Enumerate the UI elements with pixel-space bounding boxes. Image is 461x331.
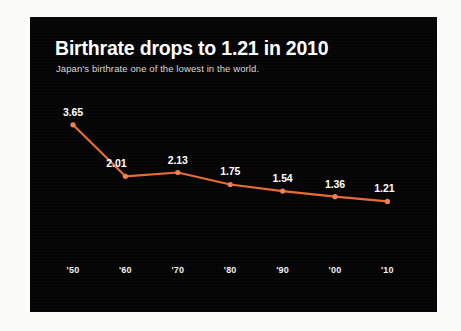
data-point-label: 1.75 <box>220 165 240 177</box>
data-point-label: 1.54 <box>273 172 293 184</box>
x-tick-label: '10 <box>381 265 394 275</box>
data-point-marker <box>385 199 390 204</box>
data-point-label: 1.21 <box>374 182 394 194</box>
x-tick-label: '00 <box>329 265 342 275</box>
data-point-marker <box>175 170 180 175</box>
chart-page: Birthrate drops to 1.21 in 2010 Japan's … <box>0 0 461 331</box>
x-tick-label: '70 <box>171 265 184 275</box>
data-point-label: 2.13 <box>168 154 188 166</box>
data-point-label: 3.65 <box>63 106 83 118</box>
x-tick-label: '60 <box>119 265 132 275</box>
data-point-label: 1.36 <box>325 178 345 190</box>
data-point-label: 2.01 <box>106 157 126 169</box>
chart-panel: Birthrate drops to 1.21 in 2010 Japan's … <box>30 17 437 312</box>
x-tick-label: '80 <box>224 265 237 275</box>
x-tick-label: '90 <box>276 265 289 275</box>
data-point-marker <box>123 174 128 179</box>
data-point-marker <box>280 189 285 194</box>
data-point-marker <box>70 122 75 127</box>
x-tick-label: '50 <box>67 265 80 275</box>
data-point-marker <box>332 194 337 199</box>
data-point-marker <box>228 182 233 187</box>
